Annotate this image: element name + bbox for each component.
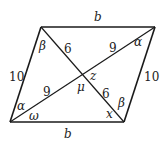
- angle-top-left-beta: β: [38, 39, 46, 53]
- label-side-bottom: b: [64, 127, 72, 141]
- label-seg-tr-center: 9: [109, 41, 117, 55]
- label-side-left: 10: [9, 70, 24, 84]
- angle-center-mu: μ: [77, 80, 85, 94]
- label-side-right: 10: [144, 70, 159, 84]
- parallelogram-diagram: b b 10 10 6 6 9 9 β α α ω β x z μ: [0, 0, 166, 142]
- label-seg-bl-center: 9: [43, 85, 51, 99]
- label-seg-tl-center: 6: [64, 42, 72, 56]
- angle-bottom-right-beta: β: [117, 96, 125, 110]
- label-seg-center-br: 6: [102, 87, 110, 101]
- angle-top-right-alpha: α: [134, 35, 142, 49]
- angle-bottom-right-x: x: [106, 107, 113, 121]
- angle-bottom-left-alpha: α: [17, 99, 25, 113]
- angle-center-z: z: [89, 69, 97, 83]
- label-side-top: b: [94, 10, 102, 24]
- angle-bottom-left-omega: ω: [29, 109, 39, 123]
